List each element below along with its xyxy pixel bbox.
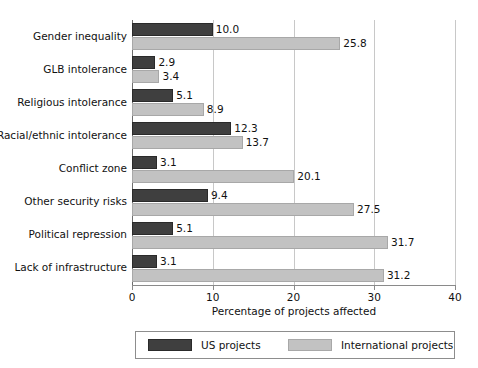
x-tick-label: 40 — [448, 291, 461, 303]
bar-value-label: 3.4 — [162, 70, 179, 83]
chart-legend: US projectsInternational projects — [135, 331, 455, 359]
bar-international-projects — [132, 170, 294, 183]
legend-swatch-icon — [148, 339, 192, 351]
bar-value-label: 31.7 — [391, 236, 414, 249]
x-tick-label: 10 — [206, 291, 219, 303]
bar-value-label: 31.2 — [387, 269, 410, 282]
bar-us-projects — [132, 122, 231, 135]
bar-international-projects — [132, 203, 354, 216]
bar-international-projects — [132, 136, 243, 149]
x-axis-title: Percentage of projects affected — [132, 305, 456, 317]
bar-value-label: 25.8 — [343, 37, 366, 50]
bar-us-projects — [132, 222, 173, 235]
bar-international-projects — [132, 236, 388, 249]
category-label: Conflict zone — [59, 162, 127, 174]
x-tick-label: 0 — [129, 291, 136, 303]
tick-mark-40 — [455, 285, 456, 290]
bar-value-label: 10.0 — [216, 23, 239, 36]
tick-mark-30 — [374, 285, 375, 290]
bar-us-projects — [132, 255, 157, 268]
gridline-40 — [455, 20, 456, 285]
bar-value-label: 12.3 — [234, 122, 257, 135]
legend-swatch-icon — [288, 339, 332, 351]
bar-value-label: 2.9 — [158, 56, 175, 69]
bar-chart-figure: 010203040 Gender inequality10.025.8GLB i… — [0, 0, 478, 368]
bar-value-label: 3.1 — [160, 156, 177, 169]
category-label: Gender inequality — [33, 30, 127, 42]
bar-international-projects — [132, 269, 384, 282]
bar-us-projects — [132, 189, 208, 202]
bar-value-label: 3.1 — [160, 255, 177, 268]
bar-us-projects — [132, 156, 157, 169]
bar-value-label: 5.1 — [176, 89, 193, 102]
legend-label: US projects — [201, 339, 261, 351]
x-tick-label: 30 — [368, 291, 381, 303]
category-label: Other security risks — [24, 195, 127, 207]
legend-label: International projects — [341, 339, 453, 351]
bar-international-projects — [132, 37, 340, 50]
bar-us-projects — [132, 89, 173, 102]
bar-value-label: 20.1 — [297, 170, 320, 183]
bar-international-projects — [132, 70, 159, 83]
bar-value-label: 13.7 — [246, 136, 269, 149]
legend-entry-us-projects[interactable]: US projects — [148, 332, 261, 358]
tick-mark-10 — [213, 285, 214, 290]
tick-mark-20 — [294, 285, 295, 290]
bar-us-projects — [132, 56, 155, 69]
category-label: Lack of infrastructure — [14, 261, 127, 273]
category-label: GLB intolerance — [43, 63, 127, 75]
x-tick-label: 20 — [287, 291, 300, 303]
bar-value-label: 5.1 — [176, 222, 193, 235]
category-label: Racial/ethnic intolerance — [0, 129, 127, 141]
bar-us-projects — [132, 23, 213, 36]
bar-international-projects — [132, 103, 204, 116]
bar-value-label: 27.5 — [357, 203, 380, 216]
category-label: Political repression — [29, 228, 127, 240]
legend-entry-international-projects[interactable]: International projects — [288, 332, 453, 358]
tick-mark-0 — [132, 285, 133, 290]
bar-value-label: 9.4 — [211, 189, 228, 202]
category-label: Religious intolerance — [17, 96, 127, 108]
bar-value-label: 8.9 — [207, 103, 224, 116]
